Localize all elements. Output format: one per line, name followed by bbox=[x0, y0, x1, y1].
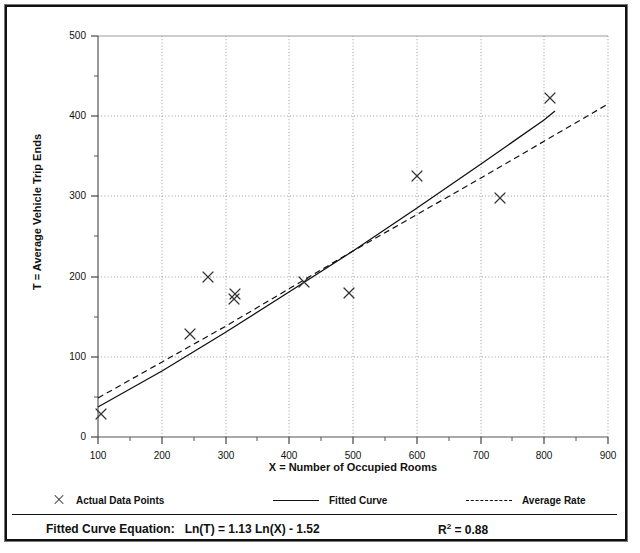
chart-legend: Actual Data Points Fitted Curve Average … bbox=[18, 489, 612, 511]
x-tick-400: 400 bbox=[269, 450, 309, 461]
x-marker-icon bbox=[52, 493, 66, 507]
y-axis-title: T = Average Vehicle Trip Ends bbox=[31, 117, 43, 307]
data-point bbox=[495, 193, 505, 203]
equation-label: Fitted Curve Equation: bbox=[46, 522, 175, 536]
x-axis-ticks bbox=[98, 437, 608, 444]
y-tick-100: 100 bbox=[48, 351, 86, 362]
data-point bbox=[412, 171, 422, 181]
y-tick-200: 200 bbox=[48, 271, 86, 282]
x-tick-900: 900 bbox=[588, 450, 628, 461]
fitted-curve-equation: Fitted Curve Equation: Ln(T) = 1.13 Ln(X… bbox=[46, 522, 320, 536]
equation-value: Ln(T) = 1.13 Ln(X) - 1.52 bbox=[185, 522, 320, 536]
legend-label-actual: Actual Data Points bbox=[76, 495, 164, 506]
r-squared-value: R2 = 0.88 bbox=[438, 522, 488, 537]
x-tick-300: 300 bbox=[206, 450, 246, 461]
y-tick-300: 300 bbox=[48, 190, 86, 201]
y-tick-0: 0 bbox=[48, 431, 86, 442]
legend-item-actual-data-points: Actual Data Points bbox=[52, 489, 164, 511]
plot-area: 500 400 300 200 100 0 100 200 300 400 50… bbox=[0, 0, 640, 553]
legend-label-average: Average Rate bbox=[522, 495, 586, 506]
solid-line-icon bbox=[273, 500, 319, 501]
footer-row: Fitted Curve Equation: Ln(T) = 1.13 Ln(X… bbox=[18, 520, 612, 546]
chart-page: 500 400 300 200 100 0 100 200 300 400 50… bbox=[0, 0, 640, 553]
x-axis-title: X = Number of Occupied Rooms bbox=[98, 461, 608, 473]
legend-label-fitted: Fitted Curve bbox=[329, 495, 387, 506]
legend-divider bbox=[12, 514, 617, 515]
data-point bbox=[185, 329, 195, 339]
rsq-label: R bbox=[438, 523, 447, 537]
legend-item-fitted-curve: Fitted Curve bbox=[273, 489, 387, 511]
vertical-gridlines bbox=[162, 36, 608, 437]
x-tick-100: 100 bbox=[78, 450, 118, 461]
fitted-curve-line bbox=[98, 111, 555, 407]
dashed-line-icon bbox=[466, 500, 512, 501]
data-point bbox=[545, 93, 555, 103]
x-tick-500: 500 bbox=[333, 450, 373, 461]
x-tick-200: 200 bbox=[142, 450, 182, 461]
x-tick-700: 700 bbox=[461, 450, 501, 461]
y-tick-500: 500 bbox=[48, 30, 86, 41]
x-tick-800: 800 bbox=[524, 450, 564, 461]
data-point-markers bbox=[96, 93, 555, 419]
rsq-number: = 0.88 bbox=[454, 523, 488, 537]
y-tick-400: 400 bbox=[48, 110, 86, 121]
x-tick-600: 600 bbox=[397, 450, 437, 461]
rsq-exponent: 2 bbox=[447, 522, 451, 531]
legend-item-average-rate: Average Rate bbox=[466, 489, 586, 511]
